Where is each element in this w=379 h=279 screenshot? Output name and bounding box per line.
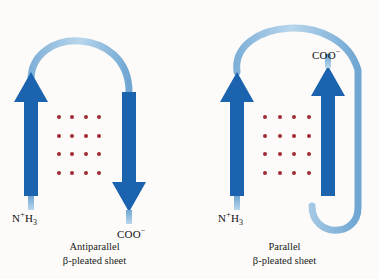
caption-line-2: β-pleated sheet [190, 254, 379, 268]
c-terminus-label: COO− [117, 226, 146, 240]
hbond-dot [292, 115, 296, 119]
hbond-dot [263, 171, 267, 175]
hbond-dot [307, 152, 311, 156]
hbond-dot [307, 134, 311, 138]
hydrogen-bond-dot-grid [52, 108, 106, 182]
hbond-dot [292, 171, 296, 175]
hbond-dot [84, 171, 88, 175]
hbond-dot [70, 134, 74, 138]
hydrogen-bond-dot-grid [258, 108, 316, 182]
hbond-dot [307, 115, 311, 119]
beta-sheet-figure: N+H3 COO− Antiparallel β-pleated sheet [0, 0, 379, 279]
hbond-dot [292, 134, 296, 138]
strand-arrow-up-right [311, 66, 345, 196]
hbond-dot [263, 134, 267, 138]
hbond-dot [84, 134, 88, 138]
hbond-dot [278, 115, 282, 119]
caption-line-1: Parallel [268, 241, 300, 252]
hbond-dot [97, 115, 101, 119]
panel-caption: Antiparallel β-pleated sheet [0, 240, 189, 268]
strand-arrow-down-right [112, 92, 146, 212]
hbond-dot [57, 171, 61, 175]
hbond-dot [84, 115, 88, 119]
c-terminal-tail-right [126, 210, 132, 224]
caption-line-2: β-pleated sheet [0, 254, 189, 268]
hbond-dot [97, 134, 101, 138]
strand-arrow-up-left [14, 72, 48, 196]
hbond-dot [278, 171, 282, 175]
panel-antiparallel: N+H3 COO− Antiparallel β-pleated sheet [0, 0, 189, 279]
hbond-dot [278, 134, 282, 138]
hbond-dot [307, 171, 311, 175]
hbond-dot [263, 152, 267, 156]
hbond-dot [292, 152, 296, 156]
panel-caption: Parallel β-pleated sheet [190, 240, 379, 268]
hbond-dot [57, 134, 61, 138]
panel-parallel: N+H3 COO− Parallel β-pleated sheet [190, 0, 379, 279]
hbond-dot [70, 152, 74, 156]
n-terminal-tail-left [28, 196, 34, 210]
strand-arrow-up-left [220, 72, 254, 196]
n-terminus-label: N+H3 [12, 210, 37, 227]
hbond-dot [263, 115, 267, 119]
hbond-dot [84, 152, 88, 156]
hbond-dot [97, 171, 101, 175]
caption-line-1: Antiparallel [69, 241, 119, 252]
hbond-dot [97, 152, 101, 156]
connecting-loop-ribbon [31, 41, 129, 92]
n-terminal-tail-left [234, 196, 240, 210]
hbond-dot [70, 171, 74, 175]
hbond-dot [57, 152, 61, 156]
n-terminus-label: N+H3 [218, 210, 243, 227]
c-terminus-label: COO− [312, 47, 341, 61]
hbond-dot [278, 152, 282, 156]
hbond-dot [70, 115, 74, 119]
hbond-dot [57, 115, 61, 119]
